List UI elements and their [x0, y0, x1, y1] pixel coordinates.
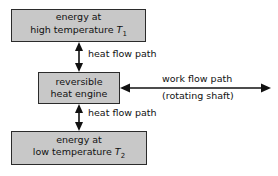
heat-flow-bottom-arrowhead-down	[75, 122, 83, 131]
label-heat-flow-path-top: heat flow path	[88, 48, 157, 60]
heat-engine-diagram: energy at high temperature T1 reversible…	[0, 0, 278, 176]
heat-flow-top-arrowhead-down	[75, 63, 83, 72]
arrow-layer	[0, 0, 278, 176]
work-flow-arrowhead-right	[261, 84, 271, 93]
label-work-flow-path: work flow path	[162, 73, 232, 85]
heat-flow-bottom-arrowhead-up	[75, 104, 83, 113]
label-heat-flow-path-bottom: heat flow path	[88, 107, 157, 119]
work-flow-arrowhead-left	[120, 84, 130, 93]
label-rotating-shaft: (rotating shaft)	[162, 90, 234, 102]
heat-flow-top-arrowhead-up	[75, 42, 83, 51]
